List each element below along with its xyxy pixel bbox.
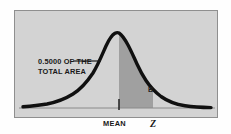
- region-b-label: B: [148, 85, 153, 94]
- area-annotation: 0.5000 OF THE TOTAL AREA: [38, 57, 92, 76]
- shaded-area-b-region: [119, 33, 153, 108]
- normal-curve-plot: 0.5000 OF THE TOTAL AREA B: [14, 10, 218, 118]
- area-annotation-line1: 0.5000 OF THE: [38, 57, 92, 67]
- area-annotation-line2: TOTAL AREA: [38, 67, 92, 77]
- mean-axis-label: MEAN: [103, 119, 126, 128]
- figure-container: 0.5000 OF THE TOTAL AREA B MEAN Z: [0, 0, 231, 134]
- z-axis-label: Z: [150, 118, 156, 129]
